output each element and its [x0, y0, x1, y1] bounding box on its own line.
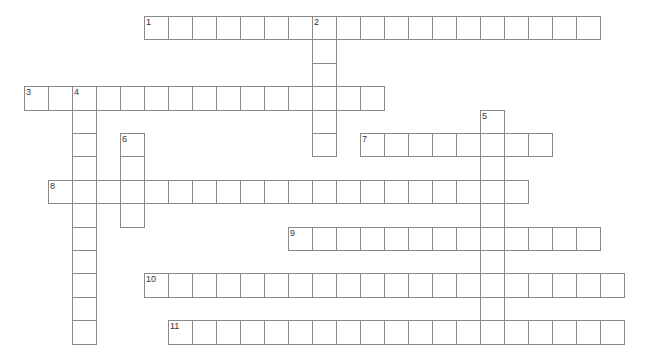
- crossword-cell[interactable]: [96, 86, 121, 110]
- crossword-cell[interactable]: [360, 16, 385, 40]
- crossword-cell[interactable]: [288, 180, 313, 204]
- crossword-cell[interactable]: [120, 86, 145, 110]
- crossword-cell[interactable]: [480, 16, 505, 40]
- crossword-cell[interactable]: [528, 16, 553, 40]
- crossword-cell[interactable]: [432, 273, 457, 297]
- crossword-cell[interactable]: [552, 16, 577, 40]
- crossword-cell[interactable]: [360, 273, 385, 297]
- crossword-cell[interactable]: 5: [480, 110, 505, 134]
- crossword-cell[interactable]: [192, 273, 217, 297]
- crossword-cell[interactable]: [312, 39, 337, 63]
- crossword-cell[interactable]: [408, 227, 433, 251]
- crossword-cell[interactable]: [456, 133, 481, 157]
- crossword-cell[interactable]: [480, 297, 505, 321]
- crossword-cell[interactable]: [216, 273, 241, 297]
- crossword-cell[interactable]: [312, 180, 337, 204]
- crossword-cell[interactable]: [552, 273, 577, 297]
- crossword-cell[interactable]: [552, 227, 577, 251]
- crossword-cell[interactable]: [576, 273, 601, 297]
- crossword-cell[interactable]: [408, 133, 433, 157]
- crossword-cell[interactable]: [600, 273, 625, 297]
- crossword-cell[interactable]: [312, 227, 337, 251]
- crossword-cell[interactable]: [120, 203, 145, 227]
- crossword-cell[interactable]: [384, 273, 409, 297]
- crossword-cell[interactable]: [360, 180, 385, 204]
- crossword-cell[interactable]: [432, 180, 457, 204]
- crossword-cell[interactable]: 9: [288, 227, 313, 251]
- crossword-cell[interactable]: [504, 16, 529, 40]
- crossword-cell[interactable]: [192, 180, 217, 204]
- crossword-cell[interactable]: 2: [312, 16, 337, 40]
- crossword-cell[interactable]: [432, 227, 457, 251]
- crossword-cell[interactable]: [432, 133, 457, 157]
- crossword-cell[interactable]: [192, 86, 217, 110]
- crossword-cell[interactable]: [384, 320, 409, 344]
- crossword-cell[interactable]: [528, 320, 553, 344]
- crossword-cell[interactable]: [264, 16, 289, 40]
- crossword-cell[interactable]: [312, 320, 337, 344]
- crossword-cell[interactable]: [360, 320, 385, 344]
- crossword-cell[interactable]: [504, 180, 529, 204]
- crossword-cell[interactable]: [336, 320, 361, 344]
- crossword-cell[interactable]: 1: [144, 16, 169, 40]
- crossword-cell[interactable]: [312, 63, 337, 87]
- crossword-cell[interactable]: [456, 320, 481, 344]
- crossword-cell[interactable]: [528, 273, 553, 297]
- crossword-cell[interactable]: [360, 86, 385, 110]
- crossword-cell[interactable]: [528, 227, 553, 251]
- crossword-cell[interactable]: [240, 180, 265, 204]
- crossword-cell[interactable]: 4: [72, 86, 97, 110]
- crossword-cell[interactable]: [120, 156, 145, 180]
- crossword-cell[interactable]: [216, 86, 241, 110]
- crossword-cell[interactable]: [288, 320, 313, 344]
- crossword-cell[interactable]: [600, 320, 625, 344]
- crossword-cell[interactable]: [72, 297, 97, 321]
- crossword-cell[interactable]: [504, 273, 529, 297]
- crossword-cell[interactable]: [408, 16, 433, 40]
- crossword-cell[interactable]: [360, 227, 385, 251]
- crossword-cell[interactable]: [336, 16, 361, 40]
- crossword-cell[interactable]: [240, 16, 265, 40]
- crossword-cell[interactable]: [216, 180, 241, 204]
- crossword-cell[interactable]: [480, 273, 505, 297]
- crossword-cell[interactable]: [576, 227, 601, 251]
- crossword-cell[interactable]: [192, 16, 217, 40]
- crossword-cell[interactable]: [480, 250, 505, 274]
- crossword-cell[interactable]: 6: [120, 133, 145, 157]
- crossword-cell[interactable]: [96, 180, 121, 204]
- crossword-cell[interactable]: [72, 227, 97, 251]
- crossword-cell[interactable]: [504, 227, 529, 251]
- crossword-cell[interactable]: [288, 16, 313, 40]
- crossword-cell[interactable]: [504, 320, 529, 344]
- crossword-cell[interactable]: [72, 156, 97, 180]
- crossword-cell[interactable]: [336, 227, 361, 251]
- crossword-cell[interactable]: [168, 16, 193, 40]
- crossword-cell[interactable]: 8: [48, 180, 73, 204]
- crossword-cell[interactable]: [144, 180, 169, 204]
- crossword-cell[interactable]: [240, 273, 265, 297]
- crossword-cell[interactable]: [48, 86, 73, 110]
- crossword-cell[interactable]: [480, 320, 505, 344]
- crossword-cell[interactable]: 3: [24, 86, 49, 110]
- crossword-cell[interactable]: [384, 16, 409, 40]
- crossword-cell[interactable]: [72, 133, 97, 157]
- crossword-cell[interactable]: [264, 86, 289, 110]
- crossword-cell[interactable]: [312, 273, 337, 297]
- crossword-cell[interactable]: [72, 203, 97, 227]
- crossword-cell[interactable]: [192, 320, 217, 344]
- crossword-cell[interactable]: [72, 180, 97, 204]
- crossword-cell[interactable]: [336, 180, 361, 204]
- crossword-cell[interactable]: [432, 16, 457, 40]
- crossword-cell[interactable]: [72, 250, 97, 274]
- crossword-cell[interactable]: [168, 86, 193, 110]
- crossword-cell[interactable]: 7: [360, 133, 385, 157]
- crossword-cell[interactable]: [552, 320, 577, 344]
- crossword-cell[interactable]: [72, 320, 97, 344]
- crossword-cell[interactable]: [240, 320, 265, 344]
- crossword-cell[interactable]: [144, 86, 169, 110]
- crossword-cell[interactable]: 10: [144, 273, 169, 297]
- crossword-cell[interactable]: [456, 227, 481, 251]
- crossword-cell[interactable]: [120, 180, 145, 204]
- crossword-cell[interactable]: [336, 273, 361, 297]
- crossword-cell[interactable]: [384, 133, 409, 157]
